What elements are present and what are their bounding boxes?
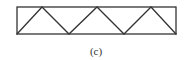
warren-truss-diagram [0,0,186,44]
truss-figure: (c) [0,0,186,60]
truss-diagonal-members [17,7,176,34]
truss-outer-frame [17,7,176,34]
figure-caption: (c) [0,44,186,58]
